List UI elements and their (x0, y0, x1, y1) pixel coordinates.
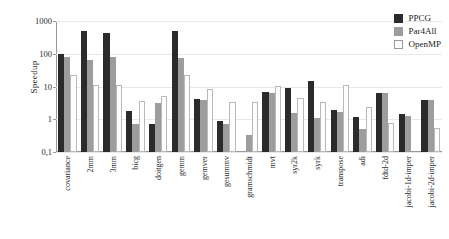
bar-openmp (161, 96, 167, 152)
x-axis-category-label: mvt (267, 156, 276, 168)
bar-group (170, 21, 193, 152)
bar-openmp (434, 128, 440, 152)
bar-group (283, 21, 306, 152)
x-axis-category-label: fdtd-2d (381, 156, 390, 180)
bar-openmp (93, 85, 99, 152)
bar-group (192, 21, 215, 152)
x-axis-category: jacobi-1d-imper (397, 154, 420, 239)
bar-group (79, 21, 102, 152)
x-axis-category-label: gramschmidt (244, 156, 253, 198)
chart-legend: PPCGPar4AllOpenMP (394, 13, 441, 52)
gridline (56, 152, 442, 153)
x-axis-category-label: gesummv (222, 156, 231, 187)
x-axis-category-label: jacobi-1d-imper (403, 156, 412, 208)
x-axis-category: gramschmidt (238, 154, 261, 239)
x-axis-category: transpose (328, 154, 351, 239)
bar-openmp (275, 86, 281, 152)
legend-label: PPCG (408, 13, 431, 23)
x-axis-category-label: 3mm (108, 156, 117, 172)
bar-group (56, 21, 79, 152)
y-axis-label: Speedup (29, 42, 39, 112)
legend-swatch-icon (394, 27, 403, 36)
bar-openmp (343, 85, 349, 152)
x-axis-category: 3mm (101, 154, 124, 239)
x-axis-category: gemver (192, 154, 215, 239)
bar-openmp (320, 102, 326, 152)
bar-par4all (405, 116, 411, 152)
bar-group (260, 21, 283, 152)
y-axis-tick-mark (53, 152, 56, 153)
bar-group (215, 21, 238, 152)
plot-area: 10001001010,1 (56, 21, 442, 152)
legend-item: Par4All (394, 26, 441, 36)
x-axis-category: 2mm (79, 154, 102, 239)
bar-openmp (366, 107, 372, 152)
x-axis-category: syrk (306, 154, 329, 239)
legend-label: Par4All (408, 26, 436, 36)
x-axis-category-label: jacobi-2d-imper (426, 156, 435, 208)
x-axis-category-label: 2mm (86, 156, 95, 172)
bar-group (101, 21, 124, 152)
x-axis-category: gemm (170, 154, 193, 239)
bar-openmp (297, 98, 303, 152)
speedup-bar-chart: Speedup 10001001010,1 covariance2mm3mmbi… (0, 0, 449, 239)
y-axis-tick-label: 0,1 (41, 148, 52, 157)
legend-swatch-icon (394, 14, 403, 23)
y-axis-tick-label: 1 (48, 115, 52, 124)
legend-item: PPCG (394, 13, 441, 23)
y-axis-tick-label: 100 (39, 50, 52, 59)
x-axis-category: jacobi-2d-imper (419, 154, 442, 239)
x-axis-category-label: transpose (335, 156, 344, 186)
bar-openmp (229, 102, 235, 152)
bar-group (238, 21, 261, 152)
x-axis-category: fdtd-2d (374, 154, 397, 239)
x-axis-category-label: covariance (63, 156, 72, 191)
x-axis-category-label: adi (358, 156, 367, 166)
bar-group (351, 21, 374, 152)
x-axis-category: adi (351, 154, 374, 239)
x-axis-category-label: gemm (176, 156, 185, 176)
x-axis-category-label: syrk (313, 156, 322, 170)
x-axis-category: gesummv (215, 154, 238, 239)
bar-openmp (207, 89, 213, 152)
x-axis-category-label: doitgen (154, 156, 163, 180)
x-axis-category: bicg (124, 154, 147, 239)
bar-openmp (139, 101, 145, 152)
bar-group (124, 21, 147, 152)
bar-group (374, 21, 397, 152)
x-axis-category: mvt (260, 154, 283, 239)
x-axis-category: covariance (56, 154, 79, 239)
legend-label: OpenMP (408, 39, 441, 49)
x-axis-category-label: syr2k (290, 156, 299, 174)
x-axis-category: syr2k (283, 154, 306, 239)
x-axis-category-label: bicg (131, 156, 140, 170)
bar-openmp (252, 102, 258, 152)
bar-openmp (70, 75, 76, 152)
y-axis-tick-label: 10 (44, 82, 53, 91)
bar-group (147, 21, 170, 152)
legend-swatch-icon (394, 40, 403, 49)
bar-group (306, 21, 329, 152)
bar-openmp (184, 75, 190, 152)
bar-group (328, 21, 351, 152)
x-axis-category: doitgen (147, 154, 170, 239)
x-axis-category-label: gemver (199, 156, 208, 180)
x-axis-category-labels: covariance2mm3mmbicgdoitgengemmgemverges… (56, 154, 442, 239)
bar-groups (56, 21, 442, 152)
bar-openmp (116, 85, 122, 152)
y-axis-tick-label: 1000 (35, 17, 52, 26)
legend-item: OpenMP (394, 39, 441, 49)
bar-openmp (388, 123, 394, 152)
